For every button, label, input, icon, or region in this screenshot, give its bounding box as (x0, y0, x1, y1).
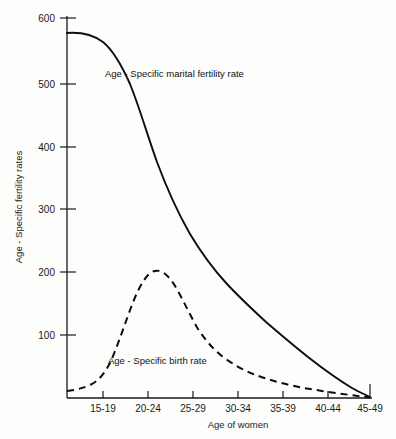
y-tick-label-200: 200 (38, 267, 55, 278)
x-axis-ticks (103, 384, 370, 398)
fertility-rate-chart-figure: 600 500 400 300 200 100 15-19 20-24 25-2… (0, 0, 396, 439)
x-axis-title: Age of women (208, 419, 269, 430)
y-tick-label-600: 600 (38, 13, 55, 24)
y-axis-title: Age - Specific fertility rates (13, 151, 24, 264)
y-tick-label-500: 500 (38, 79, 55, 90)
annotation-birth-rate-text: Age - Specific birth rate (108, 355, 207, 366)
annotation-marital-fertility-rate-text: Age - Specific marital fertility rate (105, 68, 244, 79)
y-axis-ticks (60, 18, 76, 335)
y-tick-label-100: 100 (38, 330, 55, 341)
x-tick-label-25-29: 25-29 (180, 403, 206, 414)
series-line-marital-fertility-rate (67, 33, 370, 397)
annotation-marital-fertility-rate: Age - Specific marital fertility rate (105, 63, 244, 81)
y-tick-label-300: 300 (38, 204, 55, 215)
annotation-birth-rate: Age - Specific birth rate (108, 350, 207, 368)
x-tick-label-15-19: 15-19 (90, 403, 116, 414)
x-tick-label-40-44: 40-44 (315, 403, 341, 414)
x-tick-label-45-49: 45-49 (357, 403, 383, 414)
y-tick-label-400: 400 (38, 142, 55, 153)
x-tick-label-20-24: 20-24 (135, 403, 161, 414)
series-line-birth-rate (67, 271, 370, 398)
x-tick-label-35-39: 35-39 (270, 403, 296, 414)
x-tick-label-30-34: 30-34 (225, 403, 251, 414)
